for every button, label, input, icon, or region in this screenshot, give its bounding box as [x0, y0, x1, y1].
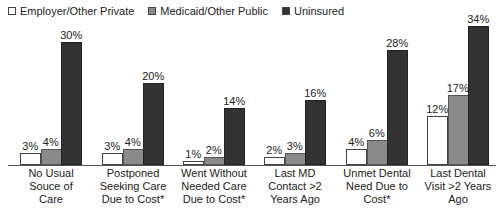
category-label-line: Years Ago: [255, 193, 335, 206]
category-label-line: Souce of: [11, 180, 91, 193]
category-label-line: Postponed: [93, 167, 173, 180]
value-label: 6%: [364, 127, 390, 139]
category-label-line: Visit >2 Years: [418, 180, 498, 193]
bar-uninsured: [305, 100, 326, 165]
bar-public: [448, 95, 469, 165]
value-label: 4%: [38, 136, 64, 148]
x-axis-line: [8, 165, 496, 166]
value-label: 17%: [445, 82, 471, 94]
category-label: Last MDContact >2Years Ago: [255, 167, 335, 206]
bar-private: [102, 153, 123, 165]
category-label: Went WithoutNeeded CareDue to Cost*: [174, 167, 254, 206]
category-label-line: Due to Cost*: [93, 193, 173, 206]
category-label-line: Contact >2: [255, 180, 335, 193]
bar-uninsured: [224, 108, 245, 165]
category-label-line: Cost*: [337, 193, 417, 206]
category-label-line: Last Dental: [418, 167, 498, 180]
bar-public: [41, 149, 62, 165]
value-label: 2%: [201, 144, 227, 156]
value-label: 34%: [465, 13, 491, 25]
category-label-line: Care: [11, 193, 91, 206]
bar-uninsured: [143, 83, 164, 165]
value-label: 16%: [302, 87, 328, 99]
bar-private: [346, 149, 367, 165]
bar-chart: 3%4%30%No UsualSouce ofCare3%4%20%Postpo…: [0, 0, 500, 210]
category-label-line: Needed Care: [174, 180, 254, 193]
category-label-line: Need Due to: [337, 180, 417, 193]
category-label: PostponedSeeking CareDue to Cost*: [93, 167, 173, 206]
bar-private: [427, 116, 448, 165]
category-label-line: Last MD: [255, 167, 335, 180]
value-label: 30%: [58, 29, 84, 41]
bar-private: [264, 157, 285, 165]
category-label: Last DentalVisit >2 YearsAgo: [418, 167, 498, 206]
value-label: 12%: [424, 103, 450, 115]
value-label: 3%: [282, 140, 308, 152]
value-label: 14%: [221, 95, 247, 107]
value-label: 20%: [140, 70, 166, 82]
category-label-line: Unmet Dental: [337, 167, 417, 180]
bar-public: [367, 140, 388, 165]
category-label-line: Ago: [418, 193, 498, 206]
category-label-line: No Usual: [11, 167, 91, 180]
category-label: Unmet DentalNeed Due toCost*: [337, 167, 417, 206]
category-label-line: Seeking Care: [93, 180, 173, 193]
bar-public: [123, 149, 144, 165]
bar-uninsured: [61, 42, 82, 165]
bar-public: [204, 157, 225, 165]
category-label-line: Went Without: [174, 167, 254, 180]
category-label: No UsualSouce ofCare: [11, 167, 91, 206]
value-label: 4%: [120, 136, 146, 148]
bar-private: [183, 161, 204, 165]
bar-private: [20, 153, 41, 165]
bar-public: [285, 153, 306, 165]
value-label: 28%: [384, 37, 410, 49]
bar-uninsured: [387, 50, 408, 165]
category-label-line: Due to Cost*: [174, 193, 254, 206]
bar-uninsured: [468, 26, 489, 165]
